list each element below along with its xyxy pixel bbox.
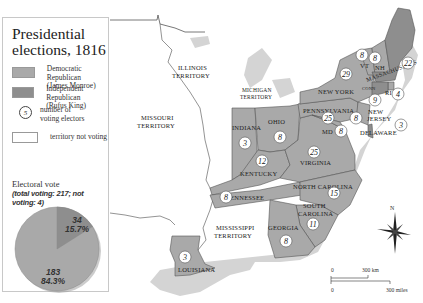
svg-text:VIRGINIA: VIRGINIA — [300, 159, 331, 166]
pie-label-independent: 3415.7% — [65, 216, 89, 234]
svg-text:LOUISIANA: LOUISIANA — [178, 266, 215, 273]
svg-text:RI: RI — [385, 89, 392, 96]
elector-vermont: 8 — [356, 49, 368, 61]
elector-ohio: 8 — [274, 131, 286, 143]
elector-virginia: 25 — [308, 146, 320, 158]
svg-text:NEW YORK: NEW YORK — [318, 88, 354, 95]
svg-text:8: 8 — [373, 54, 377, 63]
svg-text:300 km: 300 km — [362, 267, 379, 273]
svg-text:4: 4 — [396, 90, 400, 99]
elector-new-york: 29 — [340, 68, 352, 80]
scale-bar: 0 300 km 0 300 miles — [331, 267, 408, 293]
svg-text:15: 15 — [330, 189, 338, 198]
svg-text:22: 22 — [404, 59, 412, 68]
compass-rose-icon: N — [377, 205, 411, 254]
svg-text:NEWJERSEY: NEWJERSEY — [367, 108, 391, 122]
svg-text:OHIO: OHIO — [268, 118, 285, 125]
svg-text:CONN: CONN — [362, 86, 376, 91]
elector-new-jersey: 8 — [350, 112, 362, 124]
svg-text:8: 8 — [224, 193, 228, 202]
svg-text:8: 8 — [278, 133, 282, 142]
elector-tennessee: 8 — [220, 191, 232, 203]
svg-text:KENTUCKY: KENTUCKY — [240, 170, 277, 177]
svg-text:DELAWARE: DELAWARE — [360, 129, 397, 136]
svg-text:25: 25 — [324, 114, 332, 123]
pie-label-democratic: 18384.3% — [41, 268, 65, 286]
svg-text:0: 0 — [331, 287, 334, 293]
elector-louisiana: 3 — [179, 251, 191, 263]
label-mississippi-territory: MISSISSIPPITERRITORY — [214, 224, 254, 239]
elector-massachusetts: 22 — [402, 57, 414, 69]
mississippi-river — [160, 24, 214, 262]
svg-text:3: 3 — [242, 139, 247, 148]
elector-indiana: 3 — [239, 137, 251, 149]
legend-item-not-voting: territory not voting — [12, 130, 107, 143]
legend-swatch-not-voting — [12, 132, 38, 143]
northern-border — [110, 15, 205, 32]
svg-text:12: 12 — [258, 157, 266, 166]
elector-north-carolina: 15 — [328, 187, 340, 199]
elector-circle-icon: 5 — [19, 106, 32, 119]
elector-south-carolina: 11 — [307, 218, 319, 230]
legend-swatch-democratic — [12, 67, 35, 78]
svg-text:GEORGIA: GEORGIA — [268, 224, 299, 231]
label-michigan-territory: MICHIGANTERRITORY — [240, 87, 272, 100]
svg-text:MD: MD — [322, 128, 333, 135]
svg-text:9: 9 — [373, 96, 377, 105]
svg-text:0: 0 — [331, 267, 334, 273]
svg-text:300 miles: 300 miles — [386, 287, 408, 293]
svg-text:VT: VT — [360, 62, 369, 69]
elector-pennsylvania: 25 — [322, 112, 334, 124]
svg-text:8: 8 — [354, 114, 358, 123]
svg-text:29: 29 — [342, 70, 350, 79]
elector-delaware: 3 — [395, 119, 407, 131]
svg-text:25: 25 — [310, 148, 318, 157]
missouri-south-border — [110, 213, 175, 225]
svg-text:11: 11 — [309, 220, 316, 229]
svg-text:INDIANA: INDIANA — [232, 124, 261, 131]
elector-new-hampshire: 8 — [369, 52, 381, 64]
map-title: Presidential elections, 1816 — [12, 26, 108, 58]
svg-text:N: N — [390, 205, 395, 211]
electoral-vote-title: Electoral vote — [12, 179, 59, 189]
elector-rhode-island: 4 — [392, 88, 404, 100]
elector-maryland: 8 — [335, 125, 347, 137]
elector-georgia: 8 — [280, 235, 292, 247]
legend-panel: Presidential elections, 1816 Democratic … — [2, 17, 109, 292]
legend-swatch-independent — [12, 87, 34, 98]
elector-connecticut: 9 — [369, 94, 381, 106]
legend-item-electors: 5 number ofvoting electors — [12, 106, 84, 123]
svg-text:8: 8 — [284, 237, 288, 246]
elector-kentucky: 12 — [256, 155, 268, 167]
svg-text:3: 3 — [398, 121, 403, 130]
svg-text:8: 8 — [339, 127, 343, 136]
svg-text:8: 8 — [360, 51, 364, 60]
label-missouri-territory: MISSOURITERRITORY — [137, 114, 175, 129]
svg-text:3: 3 — [182, 253, 187, 262]
label-illinois-territory: ILLINOISTERRITORY — [172, 64, 210, 79]
svg-text:NORTH CAROLINA: NORTH CAROLINA — [293, 183, 353, 190]
